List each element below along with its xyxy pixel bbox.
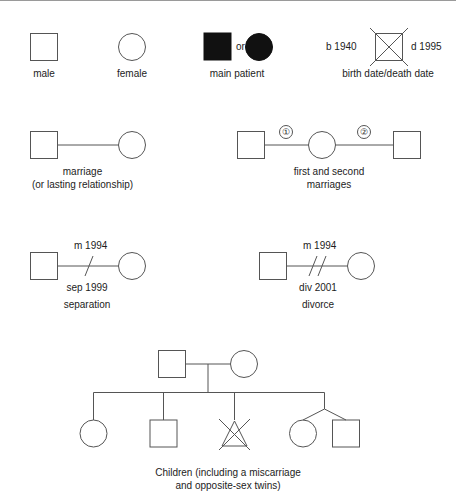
multimarriage-second-husband-square [394, 132, 421, 159]
marriage-female-circle [119, 132, 146, 159]
female-caption: female [102, 68, 162, 81]
multimarriage-caption-line2: marriages [264, 178, 394, 191]
pedigree-legend-page: male female or main patient b 1940 d 199… [0, 0, 456, 500]
multimarriage-wife-circle [309, 132, 336, 159]
twins-fork-right [325, 409, 347, 420]
family-mother-circle [231, 351, 258, 378]
birth-date-label: b 1940 [326, 41, 357, 53]
marriage-male-square [31, 132, 58, 159]
twins-fork-left [303, 409, 325, 420]
children-caption-line2: and opposite-sex twins) [88, 479, 368, 492]
multimarriage-first-husband-square [238, 132, 265, 159]
divorce-female-circle [348, 253, 375, 280]
marriage-caption-line2: (or lasting relationship) [11, 178, 154, 191]
male-square-symbol [31, 34, 58, 61]
separation-male-square [31, 253, 58, 280]
marriage-order-marker-one-label: ① [282, 126, 290, 138]
child-2-male-square [150, 420, 177, 447]
marriage-order-marker-two-label: ② [360, 126, 368, 138]
children-caption-line1: Children (including a miscarriage [88, 466, 368, 479]
child-3-miscarriage-triangle [222, 421, 247, 446]
child-4-female-twin-circle [290, 420, 317, 447]
separation-event-date: sep 1999 [52, 282, 122, 295]
separation-marriage-date: m 1994 [74, 240, 107, 252]
family-father-square [159, 351, 186, 378]
main-patient-filled-square-symbol [204, 33, 231, 60]
separation-caption: separation [45, 299, 129, 312]
main-patient-filled-circle-symbol [246, 34, 273, 61]
separation-female-circle [119, 253, 146, 280]
birth-death-caption: birth date/death date [319, 68, 456, 81]
death-date-label: d 1995 [411, 41, 442, 53]
child-5-male-twin-square [333, 420, 360, 447]
multimarriage-caption-line1: first and second [264, 165, 394, 178]
female-circle-symbol [119, 34, 146, 61]
divorce-marriage-date: m 1994 [303, 240, 336, 252]
main-patient-conjunction-or: or [236, 41, 245, 53]
divorce-event-date: div 2001 [283, 282, 353, 295]
marriage-caption-line1: marriage [21, 165, 144, 178]
child-1-female-circle [80, 420, 107, 447]
divorce-male-square [260, 253, 287, 280]
divorce-caption: divorce [283, 299, 353, 312]
main-patient-caption: main patient [187, 68, 287, 81]
male-caption: male [14, 68, 74, 81]
